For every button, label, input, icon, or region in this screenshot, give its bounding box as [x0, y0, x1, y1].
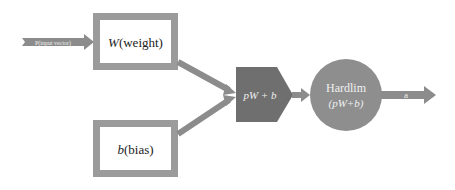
- input-arrow: P(input vector): [22, 34, 94, 50]
- bias-label: (bias): [124, 142, 154, 157]
- activation-node: Hardlim (pW+b): [310, 59, 382, 131]
- output-arrow-label: a: [404, 90, 408, 100]
- sum-node-label: pW + b: [242, 89, 277, 101]
- activation-line1: Hardlim: [326, 81, 367, 95]
- weight-box: W(weight): [97, 17, 175, 67]
- sum-to-activation-arrow: [292, 88, 310, 102]
- input-arrow-label: P(input vector): [35, 40, 71, 47]
- bias-box: b(bias): [97, 124, 175, 174]
- perceptron-diagram: P(input vector) W(weight) b(bias) pW + b…: [0, 0, 455, 190]
- activation-line2: (pW+b): [329, 97, 364, 110]
- sum-node: pW + b: [236, 67, 293, 122]
- weight-box-text: W(weight): [108, 35, 163, 50]
- output-arrow: a: [381, 86, 436, 104]
- bias-to-sum-connector: [178, 100, 229, 134]
- weight-label: (weight): [119, 35, 163, 50]
- weight-to-sum-connector: [178, 62, 229, 90]
- bias-box-text: b(bias): [117, 142, 153, 157]
